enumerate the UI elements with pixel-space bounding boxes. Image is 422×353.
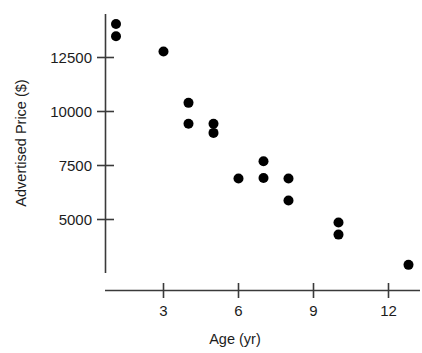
scatter-plot-figure: 12500 10000 7500 5000 3 6 9 12 Age (yr) … (0, 0, 422, 353)
data-point (209, 119, 219, 129)
data-point (159, 46, 169, 56)
data-point (234, 173, 244, 183)
data-point (111, 31, 121, 41)
data-point (334, 230, 344, 240)
data-point (209, 128, 219, 138)
data-points-layer (111, 19, 414, 270)
x-axis-tick-labels: 3 6 9 12 (159, 302, 397, 319)
data-point (111, 19, 121, 29)
y-axis-tick-labels: 12500 10000 7500 5000 (50, 49, 92, 228)
y-tick-label-7500: 7500 (59, 157, 92, 174)
data-point (284, 195, 294, 205)
x-axis-title: Age (yr) (209, 331, 261, 347)
x-tick-label-3: 3 (159, 302, 167, 319)
data-point (404, 260, 414, 270)
data-point (259, 156, 269, 166)
y-tick-label-12500: 12500 (50, 49, 92, 66)
data-point (284, 173, 294, 183)
y-tick-label-10000: 10000 (50, 103, 92, 120)
data-point (184, 98, 194, 108)
plot-canvas: 12500 10000 7500 5000 3 6 9 12 Age (yr) … (0, 0, 422, 353)
x-tick-label-9: 9 (309, 302, 317, 319)
y-axis-title: Advertised Price ($) (13, 79, 29, 206)
x-tick-label-6: 6 (234, 302, 242, 319)
data-point (334, 218, 344, 228)
data-point (184, 119, 194, 129)
y-tick-label-5000: 5000 (59, 211, 92, 228)
data-point (259, 173, 269, 183)
x-tick-label-12: 12 (380, 302, 397, 319)
